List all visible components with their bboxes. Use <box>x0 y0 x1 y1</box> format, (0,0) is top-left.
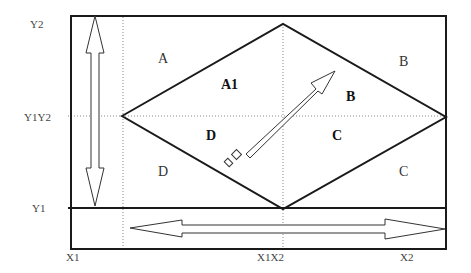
region-label-outer-a: A <box>158 53 168 65</box>
axis-label-x1x2: X1X2 <box>257 251 284 263</box>
horizontal-double-arrow-icon <box>130 219 445 239</box>
region-label-outer-d: D <box>158 166 168 178</box>
trail-box-large <box>232 150 242 160</box>
outer-frame <box>71 16 446 249</box>
region-label-inner-a1: A1 <box>221 79 238 91</box>
vertical-double-arrow-icon <box>86 16 104 206</box>
region-label-inner-b: B <box>346 91 355 103</box>
region-label-inner-d: D <box>206 130 216 142</box>
axis-label-y1: Y1 <box>32 202 45 214</box>
axis-label-y1y2: Y1Y2 <box>24 111 51 123</box>
region-label-inner-c: C <box>332 130 342 142</box>
diagonal-arrow-icon <box>246 71 335 158</box>
region-label-outer-c: C <box>399 166 408 178</box>
axis-label-x2: X2 <box>400 251 413 263</box>
axis-label-y2: Y2 <box>30 18 43 30</box>
axis-label-x1: X1 <box>66 251 79 263</box>
region-label-outer-b: B <box>399 56 408 68</box>
dotted-guides <box>68 17 446 247</box>
diagram-svg <box>0 0 471 273</box>
diagram-canvas: Y2 Y1Y2 Y1 X1 X1X2 X2 A B D C A1 B D C <box>0 0 471 273</box>
trail-box-small <box>224 158 232 166</box>
